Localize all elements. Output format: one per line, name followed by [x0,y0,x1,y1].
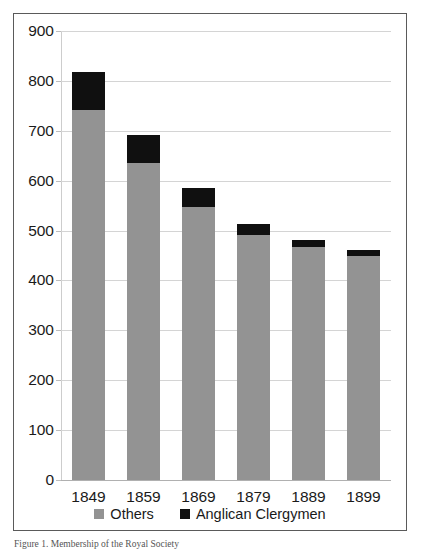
y-tick-300 [56,330,61,331]
gridline-100 [61,430,391,431]
bar-segment-anglican-clergymen-1889[interactable] [292,240,325,247]
y-axis-label-900: 900 [28,23,54,39]
bar-group-1879[interactable] [237,224,270,480]
bar-segment-others-1869[interactable] [182,207,215,480]
y-axis-label-400: 400 [28,273,54,289]
y-axis-label-0: 0 [45,472,54,488]
x-axis-label-1899: 1899 [346,489,380,505]
y-tick-200 [56,380,61,381]
bar-group-1869[interactable] [182,188,215,480]
gridline-400 [61,280,391,281]
x-axis-label-1859: 1859 [126,489,160,505]
bar-group-1899[interactable] [347,250,380,480]
legend-item-others[interactable]: Others [94,507,154,522]
y-tick-600 [56,181,61,182]
x-axis-label-1869: 1869 [181,489,215,505]
chart-legend: Others Anglican Clergymen [14,507,406,522]
x-axis-label-1889: 1889 [291,489,325,505]
y-tick-0 [56,480,61,481]
gridline-700 [61,131,391,132]
gridline-200 [61,380,391,381]
gridline-800 [61,81,391,82]
bar-segment-anglican-clergymen-1869[interactable] [182,188,215,207]
y-axis-label-300: 300 [28,323,54,339]
y-axis-label-700: 700 [28,123,54,139]
gridline-600 [61,181,391,182]
y-axis-line [61,31,62,480]
anglican-swatch-icon [180,509,190,519]
bar-segment-others-1849[interactable] [72,110,105,480]
gridline-900 [61,31,391,32]
y-tick-800 [56,81,61,82]
bar-segment-anglican-clergymen-1849[interactable] [72,72,105,110]
chart-frame: 9008007006005004003002001000 18491859186… [13,13,407,531]
y-axis-label-800: 800 [28,73,54,89]
bar-segment-others-1899[interactable] [347,256,380,481]
legend-item-anglican-clergymen[interactable]: Anglican Clergymen [180,507,326,522]
bar-group-1859[interactable] [127,135,160,480]
y-axis-label-100: 100 [28,422,54,438]
bar-segment-others-1889[interactable] [292,247,325,480]
y-tick-100 [56,430,61,431]
bar-group-1849[interactable] [72,72,105,480]
x-axis-label-1849: 1849 [71,489,105,505]
y-axis-label-600: 600 [28,173,54,189]
x-axis-label-1879: 1879 [236,489,270,505]
gridline-0 [61,480,391,481]
bar-group-1889[interactable] [292,240,325,480]
others-swatch-icon [94,509,104,519]
y-tick-900 [56,31,61,32]
bar-segment-others-1879[interactable] [237,235,270,480]
legend-label-anglican-clergymen: Anglican Clergymen [196,507,326,522]
bar-segment-others-1859[interactable] [127,163,160,480]
gridline-500 [61,231,391,232]
y-tick-500 [56,231,61,232]
gridline-300 [61,330,391,331]
bar-segment-anglican-clergymen-1879[interactable] [237,224,270,235]
y-tick-700 [56,131,61,132]
y-tick-400 [56,280,61,281]
legend-label-others: Others [110,507,154,522]
plot-area: 9008007006005004003002001000 18491859186… [61,31,391,480]
y-axis-label-500: 500 [28,223,54,239]
figure-caption: Figure 1. Membership of the Royal Societ… [14,538,414,550]
y-axis-label-200: 200 [28,372,54,388]
bar-segment-anglican-clergymen-1859[interactable] [127,135,160,163]
